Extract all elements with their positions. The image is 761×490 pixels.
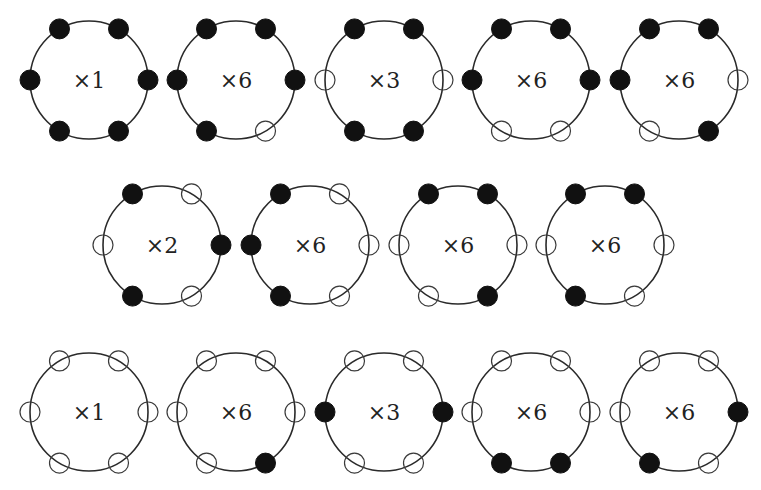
ring-configuration: ×6 <box>167 351 305 473</box>
ring-configuration: ×6 <box>610 351 748 473</box>
filled-site-icon-left <box>20 70 40 90</box>
ring-configuration: ×1 <box>20 19 158 141</box>
ring-row-3: ×1×6×3×6×6 <box>20 351 748 473</box>
multiplicity-label: ×6 <box>589 233 621 258</box>
filled-site-icon-bottom-left <box>197 121 217 141</box>
ring-configuration: ×6 <box>462 19 600 141</box>
multiplicity-label: ×3 <box>368 400 400 425</box>
multiplicity-label: ×1 <box>73 400 105 425</box>
filled-site-icon-bottom-left <box>492 453 512 473</box>
filled-site-icon-right <box>728 402 748 422</box>
filled-site-icon-right <box>285 70 305 90</box>
ring-row-2: ×2×6×6×6 <box>93 184 674 306</box>
multiplicity-label: ×6 <box>515 400 547 425</box>
multiplicity-label: ×6 <box>442 233 474 258</box>
filled-site-icon-bottom-right <box>699 121 719 141</box>
filled-site-icon-right <box>433 402 453 422</box>
filled-site-icon-left <box>241 235 261 255</box>
filled-site-icon-bottom-left <box>123 286 143 306</box>
filled-site-icon-top-right <box>699 19 719 39</box>
ring-configuration: ×6 <box>462 351 600 473</box>
filled-site-icon-top-left <box>419 184 439 204</box>
ring-configuration: ×6 <box>167 19 305 141</box>
filled-site-icon-top-left <box>50 19 70 39</box>
filled-site-icon-top-left <box>197 19 217 39</box>
ring-configuration: ×6 <box>389 184 527 306</box>
filled-site-icon-top-left <box>566 184 586 204</box>
filled-site-icon-left <box>315 402 335 422</box>
filled-site-icon-top-right <box>256 19 276 39</box>
filled-site-icon-bottom-right <box>404 121 424 141</box>
filled-site-icon-bottom-left <box>566 286 586 306</box>
ring-row-1: ×1×6×3×6×6 <box>20 19 748 141</box>
multiplicity-label: ×2 <box>146 233 178 258</box>
filled-site-icon-top-left <box>345 19 365 39</box>
multiplicity-label: ×6 <box>663 68 695 93</box>
ring-configuration: ×6 <box>536 184 674 306</box>
filled-site-icon-top-left <box>271 184 291 204</box>
ring-configuration-diagram: ×1×6×3×6×6×2×6×6×6×1×6×3×6×6 <box>0 0 761 490</box>
multiplicity-label: ×1 <box>73 68 105 93</box>
multiplicity-label: ×6 <box>294 233 326 258</box>
filled-site-icon-top-left <box>123 184 143 204</box>
ring-configuration: ×6 <box>610 19 748 141</box>
filled-site-icon-bottom-left <box>640 453 660 473</box>
filled-site-icon-bottom-right <box>109 121 129 141</box>
ring-configuration: ×3 <box>315 19 453 141</box>
filled-site-icon-left <box>462 70 482 90</box>
filled-site-icon-top-right <box>109 19 129 39</box>
filled-site-icon-top-left <box>492 19 512 39</box>
filled-site-icon-bottom-left <box>50 121 70 141</box>
filled-site-icon-left <box>610 70 630 90</box>
multiplicity-label: ×6 <box>220 68 252 93</box>
filled-site-icon-top-right <box>625 184 645 204</box>
filled-site-icon-top-right <box>478 184 498 204</box>
filled-site-icon-bottom-right <box>551 453 571 473</box>
ring-configuration: ×1 <box>20 351 158 473</box>
filled-site-icon-right <box>138 70 158 90</box>
filled-site-icon-bottom-left <box>345 121 365 141</box>
ring-configuration: ×6 <box>241 184 379 306</box>
multiplicity-label: ×3 <box>368 68 400 93</box>
filled-site-icon-right <box>580 70 600 90</box>
multiplicity-label: ×6 <box>663 400 695 425</box>
multiplicity-label: ×6 <box>515 68 547 93</box>
filled-site-icon-bottom-right <box>256 453 276 473</box>
multiplicity-label: ×6 <box>220 400 252 425</box>
filled-site-icon-bottom-right <box>478 286 498 306</box>
filled-site-icon-left <box>167 70 187 90</box>
filled-site-icon-top-left <box>640 19 660 39</box>
ring-configuration: ×2 <box>93 184 231 306</box>
filled-site-icon-top-right <box>404 19 424 39</box>
filled-site-icon-bottom-left <box>271 286 291 306</box>
filled-site-icon-right <box>211 235 231 255</box>
filled-site-icon-top-right <box>551 19 571 39</box>
ring-configuration: ×3 <box>315 351 453 473</box>
